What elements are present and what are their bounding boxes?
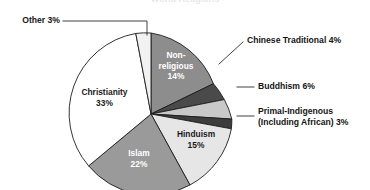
callout-label-other: Other 3% bbox=[22, 15, 60, 25]
slice-label-hinduism-value: 15% bbox=[188, 140, 205, 150]
slice-label-hinduism-name: Hinduism bbox=[177, 129, 215, 139]
leader-line-chinese-traditional bbox=[219, 42, 243, 64]
slice-label-christianity-value: 33% bbox=[96, 98, 113, 108]
slice-label-islam-name: Islam bbox=[128, 148, 149, 158]
callout-label-buddhism: Buddhism 6% bbox=[258, 81, 315, 91]
pie-chart: World Religions Non- religious 14% bbox=[0, 0, 370, 190]
slice-label-christianity-name: Christianity bbox=[81, 87, 127, 97]
slice-label-nonreligious-value: 14% bbox=[168, 71, 185, 81]
pie-slices bbox=[69, 33, 232, 190]
callout-label-primal-indigenous-line1: Primal-Indigenous bbox=[258, 106, 333, 116]
slice-label-nonreligious-line1: Non- bbox=[166, 50, 185, 60]
chart-title-remnant: World Religions bbox=[151, 0, 219, 4]
chart-screenshot: World Religions Non- religious 14% bbox=[0, 0, 370, 190]
callout-label-primal-indigenous-line2: (Including African) 3% bbox=[258, 117, 349, 127]
leader-line-other bbox=[63, 21, 147, 35]
callout-label-chinese-traditional: Chinese Traditional 4% bbox=[247, 35, 341, 45]
slice-label-islam-value: 22% bbox=[131, 159, 148, 169]
slice-label-nonreligious-line2: religious bbox=[159, 61, 194, 71]
